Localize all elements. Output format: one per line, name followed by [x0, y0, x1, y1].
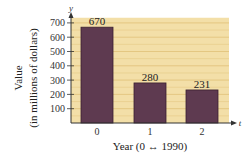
- bar-2: [186, 90, 218, 123]
- y-axis-letter: y: [68, 3, 73, 13]
- bar-0: [81, 27, 113, 123]
- data-label-1: 280: [142, 71, 159, 83]
- x-axis-arrow-icon: [231, 121, 237, 126]
- data-label-0: 670: [89, 15, 106, 27]
- y-tick-label: 700: [50, 17, 65, 28]
- data-label-2: 231: [194, 78, 211, 90]
- x-tick-label-2: 2: [200, 126, 205, 137]
- x-tick-label-0: 0: [95, 126, 100, 137]
- y-tick-label: 100: [50, 103, 65, 114]
- y-tick-label: 400: [50, 60, 65, 71]
- x-axis-letter: t: [239, 118, 242, 128]
- y-tick-label: 500: [50, 46, 65, 57]
- y-axis-title-line1: Value: [12, 65, 24, 90]
- y-tick-label: 300: [50, 75, 65, 86]
- bar-chart: 670280231 100200300400500600700 012 Valu…: [0, 0, 251, 157]
- bar-1: [134, 83, 166, 123]
- x-tick-label-1: 1: [148, 126, 153, 137]
- x-axis-title: Year (0 ↔ 1990): [113, 140, 188, 153]
- x-ticks: 012: [95, 126, 205, 137]
- y-axis-title-line2: (in millions of dollars): [27, 28, 40, 128]
- y-tick-label: 200: [50, 89, 65, 100]
- y-ticks: 100200300400500600700: [50, 17, 74, 114]
- y-tick-label: 600: [50, 32, 65, 43]
